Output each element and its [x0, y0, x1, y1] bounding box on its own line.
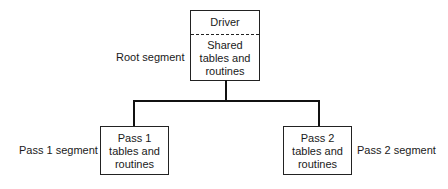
dashed-divider: [191, 34, 259, 35]
root-body: Shared tables and routines: [191, 39, 259, 78]
driver-label: Driver: [191, 16, 259, 29]
pass1-segment-box: Pass 1 tables and routines: [100, 126, 169, 175]
root-body-line: routines: [191, 65, 259, 78]
pass1-body-line: Pass 1: [101, 132, 168, 145]
pass2-segment-label: Pass 2 segment: [357, 144, 436, 157]
root-segment-box: Driver Shared tables and routines: [190, 10, 260, 81]
pass2-body: Pass 2 tables and routines: [284, 132, 351, 171]
connector-pass2-drop: [318, 100, 320, 127]
root-segment-label: Root segment: [116, 51, 184, 64]
pass2-body-line: tables and: [284, 145, 351, 158]
pass2-body-line: routines: [284, 158, 351, 171]
pass1-body-line: routines: [101, 158, 168, 171]
connector-horizontal: [133, 100, 320, 102]
pass1-segment-label: Pass 1 segment: [19, 144, 98, 157]
root-body-line: tables and: [191, 52, 259, 65]
connector-stem: [225, 80, 227, 102]
pass1-body: Pass 1 tables and routines: [101, 132, 168, 171]
root-body-line: Shared: [191, 39, 259, 52]
pass1-body-line: tables and: [101, 145, 168, 158]
connector-pass1-drop: [133, 100, 135, 127]
pass2-body-line: Pass 2: [284, 132, 351, 145]
pass2-segment-box: Pass 2 tables and routines: [283, 126, 352, 175]
